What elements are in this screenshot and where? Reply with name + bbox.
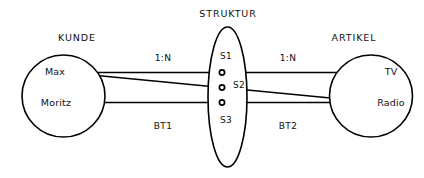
junction-dot-s1: [219, 70, 224, 75]
member-label-s1: S1: [220, 51, 232, 61]
cardinality-label-right: 1:N: [280, 53, 297, 63]
relationship-label-bt2: BT2: [279, 121, 298, 131]
member-label-s3: S3: [220, 115, 232, 125]
er-diagram: KUNDE STRUKTUR ARTIKEL Max Moritz S1 S2 …: [0, 0, 424, 178]
member-label-s2: S2: [233, 80, 245, 90]
entity-shape-struktur: [208, 27, 247, 167]
member-label-max: Max: [45, 66, 65, 77]
entity-title-struktur: STRUKTUR: [199, 8, 256, 19]
member-label-moritz: Moritz: [41, 97, 71, 108]
junction-dot-s2: [219, 85, 224, 90]
entity-title-artikel: ARTIKEL: [332, 32, 377, 43]
diagram-canvas: KUNDE STRUKTUR ARTIKEL Max Moritz S1 S2 …: [0, 0, 424, 178]
junction-dot-s3: [219, 100, 224, 105]
relationship-label-bt1: BT1: [154, 121, 173, 131]
member-label-radio: Radio: [377, 97, 405, 108]
member-label-tv: TV: [384, 66, 398, 77]
struktur-junction-dots: [219, 70, 224, 105]
entity-title-kunde: KUNDE: [58, 32, 96, 43]
cardinality-label-left: 1:N: [155, 53, 172, 63]
